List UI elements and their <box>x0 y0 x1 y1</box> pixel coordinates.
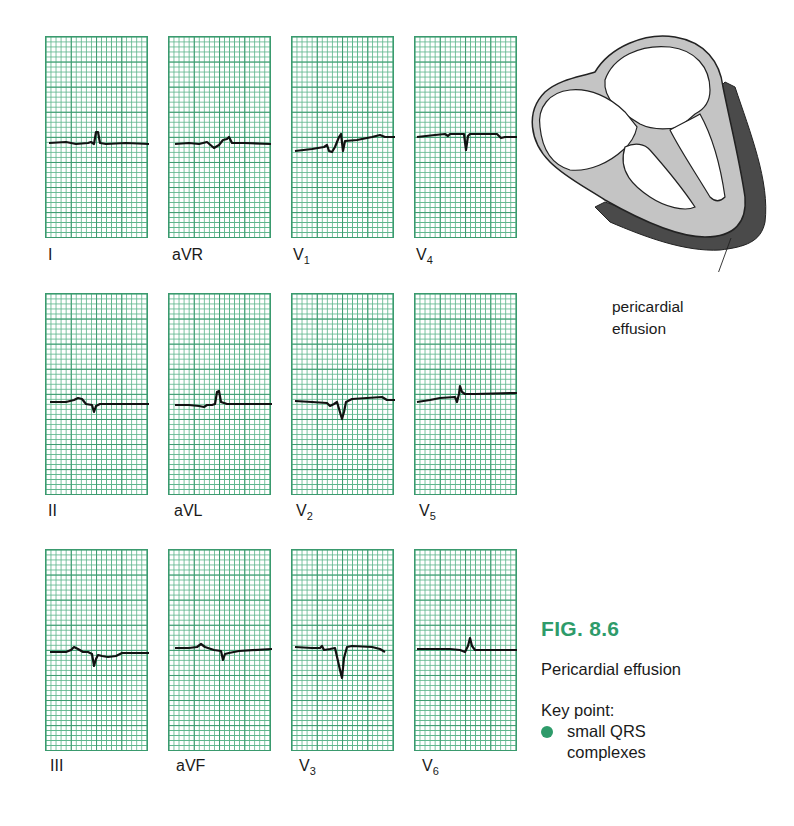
lead-label-aVF: aVF <box>176 757 205 775</box>
lead-label-I: I <box>48 246 52 264</box>
lead-label-III: III <box>50 757 63 775</box>
key-point-item: small QRS <box>541 721 646 742</box>
figure-title: Pericardial effusion <box>541 660 681 679</box>
key-point-item-continued: complexes <box>541 742 646 763</box>
ecg-panel-lead-V4 <box>414 36 517 238</box>
ecg-panel-lead-aVL <box>168 293 271 495</box>
ecg-panel-lead-III <box>45 549 148 751</box>
ecg-panel-lead-V3 <box>291 549 394 751</box>
callout-label-pericardial-effusion: pericardial effusion <box>612 296 684 340</box>
heart-cross-section-diagram <box>525 32 785 272</box>
lead-label-V5: V5 <box>419 502 436 522</box>
ecg-trace-lead-II <box>36 294 159 496</box>
lead-label-V2: V2 <box>296 502 313 522</box>
ecg-trace-lead-aVL <box>159 294 282 496</box>
lead-label-V6: V6 <box>422 757 439 777</box>
ecg-trace-lead-V3 <box>282 550 405 752</box>
ecg-panel-lead-V1 <box>291 36 394 238</box>
ecg-trace-lead-III <box>36 550 159 752</box>
bullet-icon <box>541 726 553 738</box>
ecg-trace-lead-V6 <box>405 550 528 752</box>
lead-label-V4: V4 <box>416 246 433 266</box>
lead-label-II: II <box>48 502 57 520</box>
ecg-trace-lead-V5 <box>405 294 528 496</box>
ecg-trace-lead-aVF <box>159 550 282 752</box>
ecg-trace-lead-V1 <box>282 37 405 239</box>
ecg-trace-lead-I <box>36 37 159 239</box>
ecg-trace-lead-V2 <box>282 294 405 496</box>
ecg-panel-lead-V6 <box>414 549 517 751</box>
ecg-panel-lead-aVF <box>168 549 271 751</box>
ecg-panel-lead-I <box>45 36 148 238</box>
ecg-panel-lead-V5 <box>414 293 517 495</box>
figure-number: FIG. 8.6 <box>541 617 619 641</box>
ecg-trace-lead-V4 <box>405 37 528 239</box>
ecg-panel-lead-II <box>45 293 148 495</box>
key-points: Key point: small QRS complexes <box>541 700 646 763</box>
ecg-panel-lead-aVR <box>168 36 271 238</box>
lead-label-V3: V3 <box>299 757 316 777</box>
lead-label-V1: V1 <box>293 246 310 266</box>
ecg-panel-lead-V2 <box>291 293 394 495</box>
lead-label-aVL: aVL <box>174 502 202 520</box>
lead-label-aVR: aVR <box>172 246 203 264</box>
key-point-label: Key point: <box>541 700 646 721</box>
ecg-trace-lead-aVR <box>159 37 282 239</box>
